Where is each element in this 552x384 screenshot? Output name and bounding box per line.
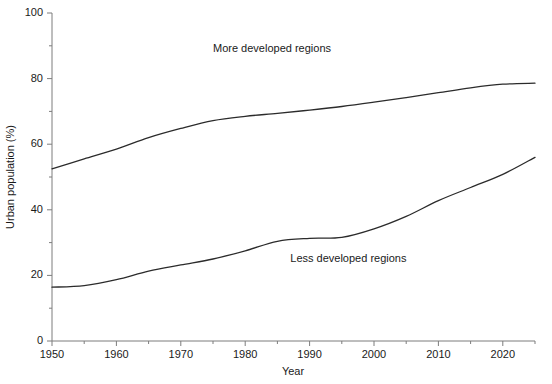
series-line-0 — [52, 83, 535, 169]
series-line-1 — [52, 157, 535, 287]
chart-container: 020406080100 Urban population (%) 195019… — [0, 0, 552, 384]
y-tick-label: 20 — [31, 268, 43, 280]
series-label-group: More developed regionsLess developed reg… — [213, 42, 407, 264]
x-axis-title: Year — [282, 365, 305, 377]
x-tick-label: 1950 — [40, 348, 64, 360]
series-label-0: More developed regions — [213, 42, 332, 54]
x-tick-group — [52, 341, 535, 346]
y-tick-label-group: 020406080100 — [25, 6, 43, 346]
y-tick-label: 40 — [31, 203, 43, 215]
x-tick-label: 1970 — [169, 348, 193, 360]
x-axis: 19501960197019801990200020102020 Year — [40, 341, 535, 377]
x-tick-label: 1960 — [104, 348, 128, 360]
line-chart: 020406080100 Urban population (%) 195019… — [0, 0, 552, 384]
x-tick-label: 2020 — [491, 348, 515, 360]
y-axis-title: Urban population (%) — [4, 125, 16, 229]
y-axis: 020406080100 Urban population (%) — [4, 6, 52, 346]
x-tick-label-group: 19501960197019801990200020102020 — [40, 348, 515, 360]
y-tick-label: 80 — [31, 72, 43, 84]
series-label-1: Less developed regions — [290, 252, 407, 264]
x-tick-label: 1990 — [297, 348, 321, 360]
y-tick-label: 100 — [25, 6, 43, 18]
x-tick-label: 2010 — [426, 348, 450, 360]
y-tick-label: 0 — [37, 334, 43, 346]
y-tick-label: 60 — [31, 137, 43, 149]
y-tick-group — [47, 13, 52, 341]
x-tick-label: 1980 — [233, 348, 257, 360]
x-tick-label: 2000 — [362, 348, 386, 360]
